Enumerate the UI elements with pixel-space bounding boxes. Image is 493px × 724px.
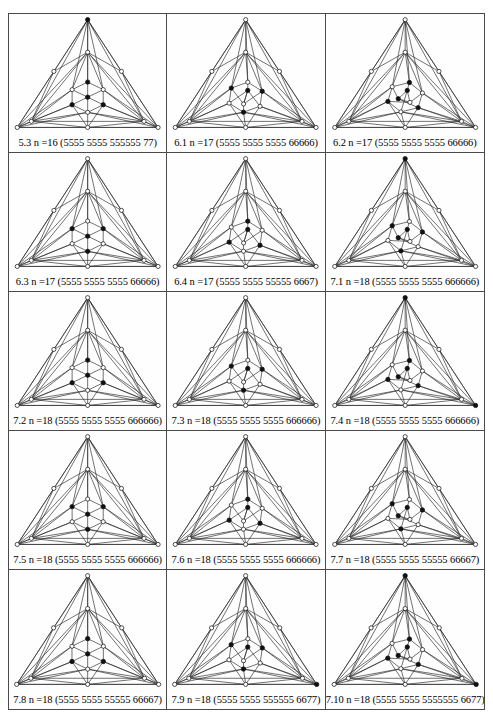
graph-vertex-open xyxy=(86,542,90,546)
graph-vertex-filled xyxy=(101,504,105,508)
graph-vertex-open xyxy=(242,249,246,253)
graph-vertex-filled xyxy=(407,80,411,84)
figure-caption: 7.10 n =18 (5555 5555 5555555 6677) xyxy=(326,692,484,709)
graph-edge xyxy=(232,221,249,227)
graph-edge xyxy=(232,20,246,88)
graph-edge xyxy=(31,159,87,261)
graph-edge xyxy=(88,469,122,488)
graph-edge xyxy=(88,529,144,538)
graph-edge xyxy=(371,330,405,349)
graph-vertex-filled xyxy=(246,88,250,92)
graph-edge xyxy=(405,121,461,127)
graph-edge xyxy=(72,330,88,367)
graph-edge xyxy=(190,71,213,121)
graph-edge xyxy=(17,628,54,685)
graph-vertex-open xyxy=(301,676,305,680)
graph-edge xyxy=(348,159,404,261)
graph-vertex-open xyxy=(86,574,90,578)
graph-edge xyxy=(88,330,122,349)
graph-edge xyxy=(176,191,246,266)
graph-edge xyxy=(88,375,104,383)
graph-vertex-open xyxy=(390,85,394,89)
graph-edge xyxy=(88,191,104,228)
graph-vertex-open xyxy=(390,363,394,367)
graph-vertex-open xyxy=(403,189,407,193)
graph-edge xyxy=(232,366,244,382)
graph-drawing xyxy=(167,570,324,692)
graph-vertex-open xyxy=(86,388,90,392)
graph-vertex-open xyxy=(242,102,246,106)
graph-vertex-filled xyxy=(85,80,89,84)
graph-vertex-open xyxy=(437,69,441,73)
graph-vertex-open xyxy=(346,536,350,540)
graph-vertex-open xyxy=(332,264,336,268)
graph-edge xyxy=(31,298,87,400)
graph-vertex-filled xyxy=(405,645,409,649)
graph-vertex-open xyxy=(242,241,246,245)
graph-vertex-open xyxy=(260,228,264,232)
graph-edge xyxy=(248,647,260,663)
graph-edge xyxy=(88,368,104,376)
graph-edge xyxy=(88,159,144,261)
figure-grid: 5.3 n =16 (5555 5555 555555 77)6.1 n =17… xyxy=(8,13,485,710)
graph-edge xyxy=(439,210,462,260)
graph-vertex-open xyxy=(385,516,389,520)
graph-vertex-open xyxy=(332,125,336,129)
graph-edge xyxy=(348,628,371,678)
graph-vertex-open xyxy=(70,88,74,92)
graph-edge xyxy=(248,90,260,106)
graph-edge xyxy=(17,330,87,405)
graph-edge xyxy=(88,609,159,685)
graph-vertex-open xyxy=(119,69,123,73)
graph-edge xyxy=(405,159,461,261)
graph-vertex-filled xyxy=(85,636,89,640)
graph-vertex-open xyxy=(156,264,160,268)
graph-vertex-open xyxy=(86,328,90,332)
graph-edge xyxy=(31,538,87,544)
graph-vertex-filled xyxy=(416,662,420,666)
graph-vertex-open xyxy=(86,667,90,671)
graph-vertex-open xyxy=(29,536,33,540)
graph-edge xyxy=(88,236,104,244)
graph-vertex-open xyxy=(101,520,105,524)
graph-vertex-filled xyxy=(420,508,424,512)
graph-vertex-open xyxy=(314,125,318,129)
graph-vertex-open xyxy=(403,50,407,54)
graph-edge xyxy=(72,514,88,522)
graph-vertex-open xyxy=(101,88,105,92)
graph-edge xyxy=(405,20,461,122)
graph-vertex-open xyxy=(52,208,56,212)
graph-canvas xyxy=(326,431,484,552)
graph-vertex-filled xyxy=(246,497,250,501)
graph-vertex-open xyxy=(258,382,262,386)
figure-caption: 6.3 n =17 (5555 5555 5555 66666) xyxy=(9,274,166,291)
graph-edge xyxy=(229,520,246,544)
graph-edge xyxy=(246,52,280,71)
graph-edge xyxy=(17,52,87,127)
graph-vertex-filled xyxy=(70,103,74,107)
graph-vertex-open xyxy=(244,435,248,439)
graph-vertex-filled xyxy=(407,358,411,362)
graph-edges xyxy=(334,159,475,267)
graph-vertex-open xyxy=(314,264,318,268)
graph-vertex-open xyxy=(369,486,373,490)
graph-vertex-open xyxy=(119,347,123,351)
graph-vertex-open xyxy=(332,403,336,407)
graph-vertex-open xyxy=(398,110,402,114)
graph-edge xyxy=(348,538,404,544)
graph-edge xyxy=(190,390,244,399)
graph-vertex-open xyxy=(86,467,90,471)
graph-vertex-open xyxy=(210,208,214,212)
graph-vertex-open xyxy=(188,536,192,540)
graph-canvas xyxy=(9,292,166,413)
graph-edge xyxy=(371,609,405,628)
graph-edge xyxy=(72,469,88,506)
graph-vertex-open xyxy=(278,347,282,351)
graph-vertex-open xyxy=(242,519,246,523)
graph-canvas xyxy=(326,14,484,135)
graph-vertex-open xyxy=(300,536,304,540)
graph-edge xyxy=(88,105,104,128)
graph-edge xyxy=(371,191,405,210)
graph-vertex-open xyxy=(403,467,407,471)
graph-vertex-open xyxy=(314,403,318,407)
